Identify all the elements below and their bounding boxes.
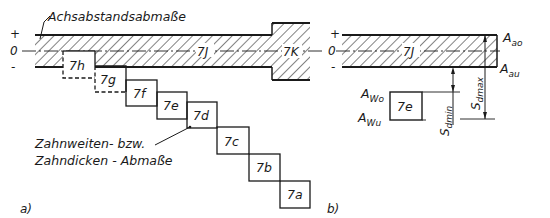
plus-sign: + bbox=[10, 27, 20, 41]
label-s-dmin: Sdmin bbox=[438, 105, 454, 136]
box-7f-label: 7f bbox=[133, 86, 147, 101]
box-7h-label: 7h bbox=[69, 58, 85, 73]
panel-b: + 0 - 7J Aao Aau 7e AWo AWu Sdmin Sdmax … bbox=[327, 27, 523, 216]
box-7e-b-label: 7e bbox=[397, 99, 413, 114]
box-7a-label: 7a bbox=[287, 187, 303, 202]
callout-text-line2: Zahndicken - Abmaße bbox=[34, 153, 173, 168]
label-a-wo: AWo bbox=[360, 86, 384, 104]
box-7c-label: 7c bbox=[224, 134, 239, 149]
label-a-wu: AWu bbox=[357, 110, 381, 128]
box-7g-label: 7g bbox=[100, 72, 116, 87]
band-7j-label: 7J bbox=[197, 45, 209, 59]
box-7d-label: 7d bbox=[193, 108, 209, 123]
box-7b-label: 7b bbox=[256, 160, 272, 175]
axis-deviation-label: Achsabstandsabmaße bbox=[47, 9, 186, 24]
callout-leader bbox=[155, 127, 190, 145]
panel-a-caption: a) bbox=[20, 202, 32, 216]
band-7j-b-label: 7J bbox=[403, 45, 415, 59]
minus-sign: - bbox=[11, 60, 15, 74]
block-7k-label: 7K bbox=[283, 45, 300, 59]
minus-sign-b: - bbox=[331, 60, 335, 74]
label-s-dmax: Sdmax bbox=[469, 76, 485, 110]
plus-sign-b: + bbox=[330, 27, 340, 41]
tolerance-diagram: + 0 - 7J 7K Achsabstandsabmaße 7h 7g bbox=[0, 0, 550, 218]
callout-text-line1: Zahnweiten- bzw. bbox=[34, 136, 145, 151]
box-7e-label: 7e bbox=[163, 98, 179, 113]
label-a-ao: Aao bbox=[502, 30, 523, 48]
zero-sign-b: 0 bbox=[328, 44, 336, 58]
panel-a: + 0 - 7J 7K Achsabstandsabmaße 7h 7g bbox=[10, 9, 322, 216]
panel-b-caption: b) bbox=[327, 202, 339, 216]
label-a-au: Aau bbox=[499, 61, 520, 79]
zero-sign: 0 bbox=[10, 44, 18, 58]
